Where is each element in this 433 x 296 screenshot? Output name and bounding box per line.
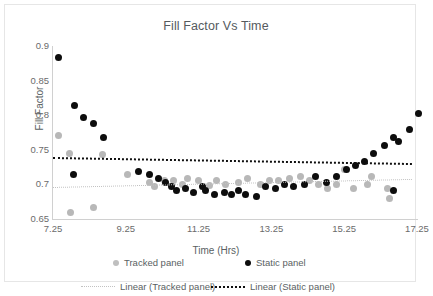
chart-title: Fill Factor Vs Time [5, 19, 427, 33]
data-point [415, 110, 422, 117]
data-point [80, 114, 87, 121]
data-point [67, 209, 74, 216]
trendline [53, 179, 412, 188]
data-point [55, 54, 62, 61]
legend-label-static-panel: Static panel [256, 257, 306, 268]
data-point [333, 181, 340, 188]
data-point [312, 173, 319, 180]
trendline [53, 157, 412, 165]
legend-item-tracked-panel[interactable]: Tracked panel [113, 257, 184, 268]
legend-label-tracked-panel: Tracked panel [124, 257, 184, 268]
data-point [221, 189, 228, 196]
legend-item-static-panel[interactable]: Static panel [245, 257, 306, 268]
data-point [146, 171, 153, 178]
data-point [370, 150, 377, 157]
legend-item-linear-static-panel[interactable]: Linear (Static panel) [211, 281, 335, 292]
x-axis-label: Time (Hrs) [5, 245, 427, 256]
data-point [173, 187, 180, 194]
data-point [71, 102, 78, 109]
data-point [395, 138, 402, 145]
data-point [262, 183, 269, 190]
data-point [297, 173, 304, 180]
legend-item-linear-tracked-panel[interactable]: Linear (Tracked panel) [81, 281, 215, 292]
data-point [343, 166, 350, 173]
tracked-panel-marker-icon [113, 260, 119, 266]
legend-label-linear-tracked-panel: Linear (Tracked panel) [120, 281, 215, 292]
x-axis-tick-labels: 7.259.2511.2513.2515.2517.25 [5, 224, 427, 240]
legend-row-markers: Tracked panel Static panel [5, 257, 427, 272]
data-point [100, 134, 107, 141]
x-axis-tick: 15.25 [314, 224, 374, 234]
data-point [228, 191, 235, 198]
data-point [350, 185, 357, 192]
x-axis-tick: 13.25 [241, 224, 301, 234]
data-point [135, 168, 142, 175]
data-point [386, 195, 393, 202]
y-axis-tick: 0.7 [9, 179, 49, 189]
chart-frame: Fill Factor Vs Time Fill Factor Time (Hr… [4, 4, 416, 282]
data-point [333, 173, 340, 180]
y-axis-tick: 0.9 [9, 41, 49, 51]
legend-row-trendlines: Linear (Tracked panel) Linear (Static pa… [5, 281, 427, 296]
y-axis-tick: 0.65 [9, 214, 49, 224]
x-axis-tick: 9.25 [96, 224, 156, 234]
data-point [55, 132, 62, 139]
data-point [324, 185, 331, 192]
data-point [222, 181, 229, 188]
data-point [272, 185, 279, 192]
data-point [66, 150, 73, 157]
static-panel-marker-icon [245, 260, 251, 266]
data-point [211, 191, 218, 198]
data-point [190, 189, 197, 196]
legend-label-linear-static-panel: Linear (Static panel) [250, 281, 335, 292]
data-point [202, 187, 209, 194]
linear-tracked-panel-line-icon [81, 286, 115, 287]
x-axis-tick: 7.25 [23, 224, 83, 234]
y-axis-tick: 0.8 [9, 110, 49, 120]
linear-static-panel-line-icon [211, 286, 245, 288]
y-axis-tick: 0.75 [9, 145, 49, 155]
y-axis-tick: 0.85 [9, 76, 49, 86]
chart-legend: Tracked panel Static panel Linear (Track… [5, 257, 427, 296]
data-point [182, 185, 189, 192]
y-axis-tick-labels: 0.90.850.80.750.70.65 [5, 5, 49, 295]
x-axis-tick: 17.25 [387, 224, 433, 234]
data-point [90, 120, 97, 127]
x-axis-line [52, 219, 418, 220]
data-point [244, 175, 251, 182]
data-point [253, 193, 260, 200]
data-point [184, 175, 191, 182]
plot-area [53, 46, 417, 219]
data-point [155, 175, 162, 182]
data-point [124, 171, 131, 178]
data-point [390, 187, 397, 194]
data-point [368, 173, 375, 180]
data-point [364, 181, 371, 188]
data-point [381, 142, 388, 149]
data-point [242, 191, 249, 198]
data-point [406, 126, 413, 133]
data-point [90, 204, 97, 211]
x-axis-tick: 11.25 [169, 224, 229, 234]
data-point [70, 171, 77, 178]
data-point [235, 187, 242, 194]
data-point [290, 183, 297, 190]
